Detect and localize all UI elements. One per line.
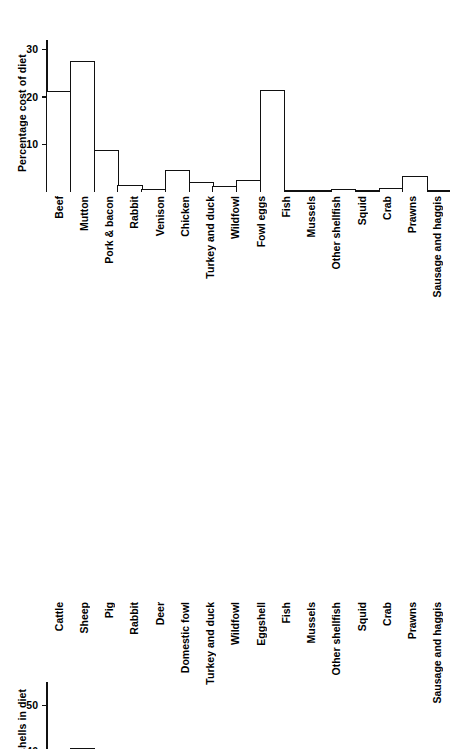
category-label-sheep: Sheep [78, 602, 90, 634]
category-label-wrap: Mutton [71, 196, 96, 231]
category-label-venison: Venison [154, 196, 166, 236]
category-label-wrap: Mussels [299, 196, 324, 237]
category-label-turkey-and-duck: Turkey and duck [204, 602, 216, 685]
category-label-wrap: Other shellfish [324, 602, 349, 676]
category-label-wrap: Squid [349, 602, 374, 631]
y-axis-label-cost: Percentage cost of diet [16, 36, 28, 190]
plot-area-cost: 102030 [46, 40, 450, 192]
bar-venison [141, 189, 166, 192]
category-label-prawns: Prawns [406, 602, 418, 639]
category-label-wrap: Pork & bacon [97, 196, 122, 264]
category-label-wrap: Fish [273, 602, 298, 624]
bar-prawns [379, 188, 404, 192]
bar-wildfowl [212, 186, 237, 192]
bar-crab [355, 191, 380, 192]
category-label-other-shellfish: Other shellfish [330, 602, 342, 676]
category-label-prawns: Prawns [406, 196, 418, 233]
category-label-wrap: Cattle [46, 602, 71, 631]
bar-pork-bacon [94, 150, 119, 192]
bar-beef [46, 91, 71, 192]
category-label-domestic-fowl: Domestic fowl [179, 602, 191, 673]
category-label-wrap: Rabbit [122, 602, 147, 635]
category-label-mussels: Mussels [305, 196, 317, 237]
bar-other-shellfish [307, 191, 332, 192]
y-tick-label: 30 [14, 44, 38, 55]
bar-mutton [70, 61, 95, 192]
category-label-mutton: Mutton [78, 196, 90, 231]
category-label-wrap: Chicken [172, 196, 197, 237]
category-label-wrap: Crab [374, 602, 399, 626]
category-label-wrap: Sausage and haggis [425, 602, 450, 704]
category-label-wrap: Turkey and duck [198, 602, 223, 685]
bar-series-cost [46, 40, 450, 192]
category-label-wrap: Venison [147, 196, 172, 236]
category-label-beef: Beef [53, 196, 65, 219]
y-axis-label-weight: Percentage weight of bones and shells in… [16, 678, 28, 749]
category-label-wrap: Fowl eggs [248, 196, 273, 247]
category-label-crab: Crab [381, 602, 393, 626]
category-label-wrap: Wildfowl [223, 196, 248, 239]
category-label-rabbit: Rabbit [128, 196, 140, 229]
category-label-wrap: Sheep [71, 602, 96, 634]
category-label-crab: Crab [381, 196, 393, 220]
category-label-fish: Fish [280, 196, 292, 218]
bar-fowl-eggs [236, 180, 261, 192]
category-label-squid: Squid [356, 602, 368, 631]
bar-chicken [165, 170, 190, 192]
bar-rabbit [117, 185, 142, 192]
bar-fish [260, 90, 285, 192]
category-label-wrap: Mussels [299, 602, 324, 643]
category-label-wrap: Crab [374, 196, 399, 220]
category-label-wrap: Wildfowl [223, 602, 248, 645]
category-label-wrap: Sausage and haggis [425, 196, 450, 298]
category-label-wrap: Domestic fowl [172, 602, 197, 673]
category-label-sausage-and-haggis: Sausage and haggis [431, 602, 443, 704]
chart-percentage-weight-bones-shells: Percentage weight of bones and shells in… [0, 340, 468, 749]
x-axis-category-labels-cost: BeefMuttonPork & baconRabbitVenisonChick… [46, 196, 450, 336]
category-label-pig: Pig [103, 602, 115, 618]
category-label-wrap: Other shellfish [324, 196, 349, 270]
category-label-wrap: Eggshell [248, 602, 273, 646]
bar-squid [331, 189, 356, 192]
category-label-pork-bacon: Pork & bacon [103, 196, 115, 264]
category-label-wrap: Deer [147, 602, 172, 625]
y-tick-label: 20 [14, 92, 38, 103]
bar-mussels [284, 191, 309, 192]
category-label-wildfowl: Wildfowl [229, 196, 241, 239]
y-tick-label: 10 [14, 139, 38, 150]
category-label-wrap: Prawns [400, 602, 425, 639]
category-label-rabbit: Rabbit [128, 602, 140, 635]
category-label-wrap: Turkey and duck [198, 196, 223, 279]
category-label-chicken: Chicken [179, 196, 191, 237]
category-label-fish: Fish [280, 602, 292, 624]
chart-percentage-cost-of-diet: Percentage cost of diet 102030 BeefMutto… [0, 0, 468, 340]
category-label-wildfowl: Wildfowl [229, 602, 241, 645]
category-label-mussels: Mussels [305, 602, 317, 643]
y-tick-label: 50 [14, 700, 38, 711]
category-label-eggshell: Eggshell [255, 602, 267, 646]
category-label-fowl-eggs: Fowl eggs [255, 196, 267, 247]
category-label-cattle: Cattle [53, 602, 65, 631]
category-label-deer: Deer [154, 602, 166, 625]
x-axis-category-labels-weight: CattleSheepPigRabbitDeerDomestic fowlTur… [46, 602, 450, 747]
category-label-turkey-and-duck: Turkey and duck [204, 196, 216, 279]
category-label-wrap: Fish [273, 196, 298, 218]
category-label-sausage-and-haggis: Sausage and haggis [431, 196, 443, 298]
category-label-wrap: Squid [349, 196, 374, 225]
category-label-wrap: Prawns [400, 196, 425, 233]
category-label-squid: Squid [356, 196, 368, 225]
bar-sausage-and-haggis [402, 176, 427, 192]
category-label-wrap: Pig [97, 602, 122, 618]
category-label-wrap: Beef [46, 196, 71, 219]
bar-turkey-and-duck [189, 182, 214, 192]
category-label-other-shellfish: Other shellfish [330, 196, 342, 270]
category-label-wrap: Rabbit [122, 196, 147, 229]
